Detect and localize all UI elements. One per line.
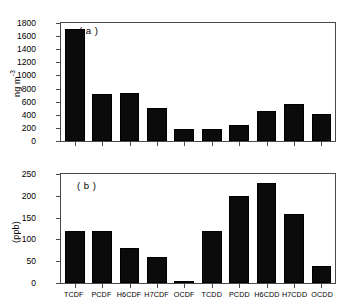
bar — [229, 125, 249, 141]
x-tick-mark — [75, 141, 76, 146]
y-tick-mark — [56, 196, 61, 197]
x-tick-mark — [239, 141, 240, 146]
x-tick-label: TCDD — [198, 290, 226, 299]
x-tick-mark — [102, 141, 103, 146]
bar-cell — [198, 23, 225, 141]
y-tick-label: 1800 — [17, 19, 36, 28]
bar-cell — [225, 23, 252, 141]
y-tick-label: 200 — [22, 192, 36, 201]
bar — [92, 94, 112, 141]
bar — [257, 111, 277, 141]
x-tick-mark — [184, 141, 185, 146]
x-tick-mark — [75, 283, 76, 288]
bar — [229, 196, 249, 283]
bar — [65, 29, 85, 141]
x-tick-mark — [130, 283, 131, 288]
bar-cell — [225, 174, 252, 283]
y-tick-mark — [56, 62, 61, 63]
y-tick-mark — [56, 261, 61, 262]
y-tick-label: 800 — [22, 84, 36, 93]
x-tick-mark — [321, 141, 322, 146]
bar-cell — [88, 174, 115, 283]
plot-area-a: ( a ) — [60, 22, 336, 142]
bar-series-b — [61, 174, 335, 283]
bar-cell — [253, 23, 280, 141]
y-tick-label: 600 — [22, 97, 36, 106]
y-tick-label: 0 — [31, 137, 36, 146]
x-tick-mark — [212, 283, 213, 288]
y-tick-label: 50 — [27, 257, 36, 266]
y-tick-mark — [56, 75, 61, 76]
x-tick-mark — [267, 141, 268, 146]
bar — [147, 108, 167, 141]
bar-series-a — [61, 23, 335, 141]
y-tick-label: 1200 — [17, 58, 36, 67]
y-tick-mark — [56, 283, 61, 284]
y-tick-mark — [56, 115, 61, 116]
y-tick-mark — [56, 23, 61, 24]
y-tick-mark — [56, 102, 61, 103]
y-tick-mark — [56, 128, 61, 129]
y-tick-label: 250 — [22, 170, 36, 179]
x-tick-mark — [212, 141, 213, 146]
x-tick-mark — [184, 283, 185, 288]
y-tick-label: 100 — [22, 235, 36, 244]
x-tick-mark — [294, 141, 295, 146]
bar — [202, 231, 222, 283]
y-tick-mark — [56, 89, 61, 90]
y-tick-label: 1000 — [17, 71, 36, 80]
bar-cell — [116, 174, 143, 283]
x-tick-label: PCDD — [226, 290, 254, 299]
x-tick-label: OCDD — [308, 290, 336, 299]
bar — [120, 93, 140, 142]
bar — [174, 129, 194, 141]
y-tick-mark — [56, 174, 61, 175]
bar-cell — [143, 174, 170, 283]
x-tick-label: H7CDD — [281, 290, 309, 299]
bar-cell — [143, 23, 170, 141]
plot-area-b: ( b ) — [60, 173, 336, 284]
y-tick-mark — [56, 49, 61, 50]
x-tick-mark — [239, 283, 240, 288]
bar-cell — [61, 23, 88, 141]
bar — [284, 104, 304, 141]
y-tick-label: 1400 — [17, 45, 36, 54]
bar — [202, 129, 222, 141]
bar-cell — [280, 174, 307, 283]
bar-cell — [171, 174, 198, 283]
x-tick-label: TCDF — [60, 290, 88, 299]
y-tick-label: 0 — [31, 279, 36, 288]
bar-cell — [253, 174, 280, 283]
bar — [312, 266, 332, 283]
x-tick-label: PCDF — [88, 290, 116, 299]
bar-cell — [308, 23, 335, 141]
bar — [312, 114, 332, 141]
bar — [120, 248, 140, 283]
chart-panel-b: (ppb) 050100150200250 ( b ) TCDFPCDFH6CD… — [0, 160, 346, 301]
bar — [284, 214, 304, 283]
y-tick-mark — [56, 239, 61, 240]
x-tick-label: H7CDF — [143, 290, 171, 299]
y-axis-tick-labels-b: 050100150200250 — [0, 173, 36, 284]
y-tick-label: 150 — [22, 213, 36, 222]
bar-cell — [88, 23, 115, 141]
bar — [92, 231, 112, 283]
bar-cell — [116, 23, 143, 141]
x-tick-label: OCDF — [170, 290, 198, 299]
bar-cell — [280, 23, 307, 141]
bar — [65, 231, 85, 283]
chart-panel-a: ng m-3 020040060080010001200140016001800… — [0, 8, 346, 156]
x-tick-mark — [294, 283, 295, 288]
x-tick-mark — [130, 141, 131, 146]
y-tick-label: 200 — [22, 124, 36, 133]
x-tick-mark — [321, 283, 322, 288]
bar — [147, 257, 167, 283]
x-tick-mark — [157, 283, 158, 288]
x-tick-mark — [267, 283, 268, 288]
x-axis-tick-labels: TCDFPCDFH6CDFH7CDFOCDFTCDDPCDDH6CDDH7CDD… — [60, 290, 336, 299]
figure: ng m-3 020040060080010001200140016001800… — [0, 0, 346, 301]
bar-cell — [198, 174, 225, 283]
bar-cell — [61, 174, 88, 283]
bar-cell — [171, 23, 198, 141]
y-tick-label: 400 — [22, 111, 36, 120]
